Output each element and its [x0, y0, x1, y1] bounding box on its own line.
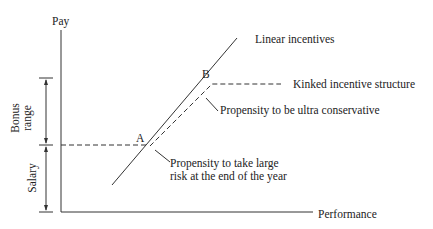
bonus-range-line1: Bonus	[9, 88, 21, 148]
point-b-label: B	[202, 68, 210, 81]
large-risk-line1: Propensity to take large	[170, 157, 287, 170]
large-risk-line2: risk at the end of the year	[170, 170, 287, 183]
ultra-conservative-label: Propensity to be ultra conservative	[220, 104, 380, 117]
linear-incentives-label: Linear incentives	[255, 33, 335, 46]
large-risk-label: Propensity to take large risk at the end…	[170, 157, 287, 183]
leader-risk	[155, 150, 170, 162]
leader-conservative	[206, 98, 218, 111]
x-axis-label: Performance	[318, 208, 377, 221]
bonus-range-line2: range	[21, 88, 33, 148]
pay-bracket	[39, 78, 53, 212]
salary-label: Salary	[26, 158, 38, 198]
bonus-range-label: Bonus range	[9, 88, 35, 148]
point-a-label: A	[136, 132, 144, 145]
kinked-incentive-label: Kinked incentive structure	[293, 78, 415, 91]
y-axis-label: Pay	[52, 15, 69, 28]
